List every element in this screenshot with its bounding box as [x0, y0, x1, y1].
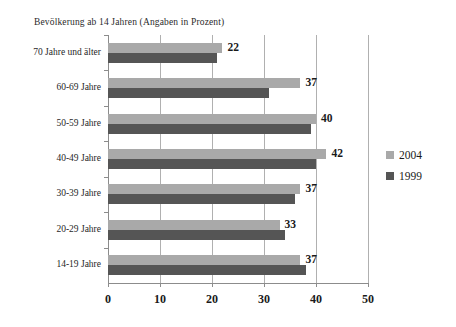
bar-2004	[108, 184, 300, 194]
y-axis-category-labels: 70 Jahre und älter60-69 Jahre50-59 Jahre…	[0, 35, 101, 283]
bar-group: 22	[108, 43, 368, 63]
x-axis-tick-label: 30	[258, 292, 270, 307]
bar-value-label: 22	[227, 41, 239, 53]
y-axis-category-label: 50-59 Jahre	[56, 118, 101, 128]
legend-swatch-icon	[386, 151, 394, 159]
bar-2004	[108, 255, 300, 265]
x-axis-tick-label: 50	[362, 292, 374, 307]
x-axis-tick-mark	[264, 283, 265, 287]
legend-label: 1999	[399, 170, 422, 182]
chart-legend: 20041999	[386, 149, 450, 191]
y-axis-category-label: 60-69 Jahre	[56, 82, 101, 92]
y-axis-category-label: 40-49 Jahre	[56, 153, 101, 163]
x-axis-tick-mark	[316, 283, 317, 287]
x-axis-tick-mark	[368, 283, 369, 287]
bar-group: 42	[108, 149, 368, 169]
bar-value-label: 33	[285, 218, 297, 230]
bar-chart: Bevölkerung ab 14 Jahren (Angaben in Pro…	[0, 0, 456, 327]
chart-title: Bevölkerung ab 14 Jahren (Angaben in Pro…	[34, 17, 224, 27]
bar-1999	[108, 159, 316, 169]
bar-1999	[108, 124, 311, 134]
bar-1999	[108, 53, 217, 63]
bar-2004	[108, 220, 280, 230]
bar-value-label: 40	[321, 112, 333, 124]
legend-item-2004[interactable]: 2004	[386, 149, 450, 161]
bar-2004	[108, 43, 222, 53]
bar-2004	[108, 78, 300, 88]
bar-group: 37	[108, 184, 368, 204]
bar-group: 33	[108, 220, 368, 240]
x-axis-tick-label: 10	[154, 292, 166, 307]
y-axis-category-label: 70 Jahre und älter	[33, 47, 101, 57]
bar-value-label: 42	[331, 147, 343, 159]
x-axis-line	[108, 283, 369, 284]
y-axis-category-label: 30-39 Jahre	[56, 188, 101, 198]
bar-2004	[108, 114, 316, 124]
gridline	[368, 35, 369, 283]
bar-1999	[108, 230, 285, 240]
bar-value-label: 37	[305, 182, 317, 194]
bar-1999	[108, 265, 306, 275]
x-axis-tick-label: 20	[206, 292, 218, 307]
x-axis-tick-label: 0	[105, 292, 111, 307]
x-axis-tick-mark	[160, 283, 161, 287]
bar-group: 37	[108, 78, 368, 98]
legend-label: 2004	[399, 149, 422, 161]
x-axis-tick-mark	[212, 283, 213, 287]
bar-value-label: 37	[305, 253, 317, 265]
plot-area: 22374042373337	[108, 35, 368, 283]
bar-group: 40	[108, 114, 368, 134]
bar-1999	[108, 88, 269, 98]
bar-1999	[108, 194, 295, 204]
legend-swatch-icon	[386, 172, 394, 180]
x-axis-tick-mark	[108, 283, 109, 287]
bar-value-label: 37	[305, 76, 317, 88]
y-axis-category-label: 20-29 Jahre	[56, 224, 101, 234]
bar-2004	[108, 149, 326, 159]
legend-item-1999[interactable]: 1999	[386, 170, 450, 182]
bar-group: 37	[108, 255, 368, 275]
x-axis-tick-label: 40	[310, 292, 322, 307]
y-axis-category-label: 14-19 Jahre	[56, 259, 101, 269]
